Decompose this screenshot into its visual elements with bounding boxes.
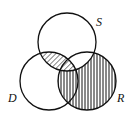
set-r-label: R — [117, 92, 124, 104]
set-d-label: D — [8, 92, 17, 104]
set-s-label: S — [96, 16, 102, 28]
